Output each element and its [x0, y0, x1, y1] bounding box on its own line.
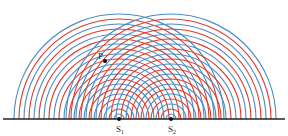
- source-s1: S1: [116, 117, 124, 135]
- point-p-label: P: [98, 51, 103, 61]
- point-p-dot: [103, 59, 107, 63]
- interference-diagram: S1S2 P: [0, 0, 288, 136]
- source-s2: S2: [168, 117, 176, 135]
- wavefront-arcs: [14, 14, 276, 119]
- diagram-canvas: S1S2 P: [0, 0, 288, 136]
- crest-arc-s1: [104, 104, 134, 119]
- source-label: S2: [168, 124, 176, 135]
- crest-arc-s2: [156, 104, 186, 119]
- sources: S1S2: [116, 117, 176, 135]
- source-dot: [169, 117, 173, 121]
- source-dot: [117, 117, 121, 121]
- source-label: S1: [116, 124, 124, 135]
